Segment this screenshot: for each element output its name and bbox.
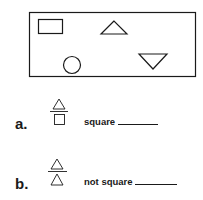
rectangle-icon (39, 20, 63, 34)
item-b-answer-row: not square (84, 177, 177, 187)
triangle-down-icon (139, 54, 167, 69)
item-a-answer-blank[interactable] (118, 117, 158, 125)
circle-icon (64, 57, 81, 74)
item-b-answer-text: not square (84, 176, 133, 187)
item-b-label: b. (15, 176, 28, 191)
fraction-b-numerator-triangle-icon (51, 159, 63, 169)
item-a-label: a. (15, 116, 28, 131)
fraction-a-numerator-triangle-icon (53, 99, 65, 109)
fraction-a-denominator-square-icon (55, 115, 65, 125)
triangle-up-icon (101, 21, 127, 34)
fraction-b-denominator-triangle-icon (51, 174, 63, 185)
item-a-answer-row: square (84, 117, 158, 127)
item-a-answer-text: square (84, 116, 115, 127)
item-b-answer-blank[interactable] (135, 177, 177, 185)
shapes-figure (0, 0, 203, 200)
